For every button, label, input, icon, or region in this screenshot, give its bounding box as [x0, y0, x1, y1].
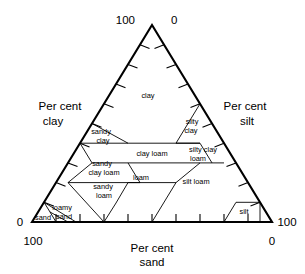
region-label-loamy-sand-line2: sand	[56, 212, 72, 221]
region-label-sandy-loam-line2: loam	[96, 191, 112, 200]
region-label-sandy-clay-loam-line1: sandy	[92, 159, 112, 168]
axis-label-silt-line1: Per cent	[224, 100, 268, 112]
axis-label-clay-line2: clay	[43, 115, 64, 127]
region-label-loamy-sand-line1: loamy	[52, 203, 72, 212]
soil-texture-triangle-figure: 100 0 0 100 100 0 Per cent clay Per cent…	[0, 0, 305, 274]
region-label-sandy-clay-line1: sandy	[91, 127, 111, 136]
ternary-diagram-svg: 100 0 0 100 100 0 Per cent clay Per cent…	[0, 0, 305, 274]
region-label-clay-loam: clay loam	[136, 149, 167, 158]
axis-label-sand-line1: Per cent	[131, 242, 175, 254]
region-label-sandy-clay-line2: clay	[96, 136, 109, 145]
region-label-sandy-loam-line1: sandy	[93, 182, 113, 191]
region-label-loam: loam	[133, 173, 149, 182]
apex-left-value: 100	[116, 14, 135, 26]
region-boundaries	[44, 104, 272, 222]
right-corner-outer-value: 100	[277, 216, 296, 228]
right-corner-below-value: 0	[269, 235, 275, 247]
axis-label-silt-line2: silt	[240, 115, 255, 127]
axis-label-clay-line1: Per cent	[39, 100, 83, 112]
region-label-silty-clay-line2: clay	[184, 126, 197, 135]
left-corner-outer-value: 0	[17, 216, 23, 228]
region-label-sand: sand	[35, 213, 51, 222]
region-label-silt: silt	[239, 207, 248, 216]
bottom-axis-ticks	[56, 214, 248, 222]
region-label-sandy-clay-loam-line2: clay loam	[88, 168, 119, 177]
region-label-silt-loam: silt loam	[182, 177, 209, 186]
apex-right-value: 0	[171, 14, 177, 26]
left-corner-below-value: 100	[23, 235, 42, 247]
region-label-clay: clay	[141, 91, 154, 100]
region-label-silty-clay-loam-line1: silty clay	[189, 145, 217, 154]
region-label-silty-clay-loam-line2: loam	[190, 154, 206, 163]
triangle-outline	[32, 25, 272, 222]
region-label-silty-clay-line1: silty	[186, 117, 199, 126]
axis-label-sand-line2: sand	[140, 256, 165, 268]
